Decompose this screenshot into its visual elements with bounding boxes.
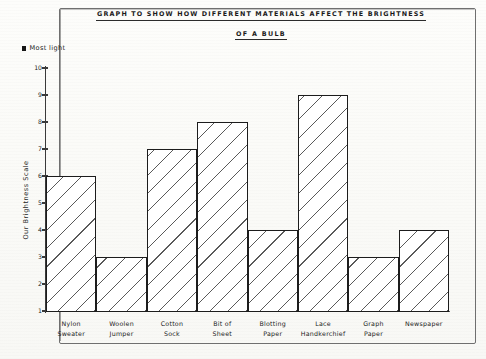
category-label-word: Newspaper (393, 319, 455, 329)
y-axis-tick (42, 67, 48, 68)
bar (197, 122, 247, 312)
chart-plot-area: Our Brightness Scale 10987654321 NylonSw… (0, 0, 486, 359)
y-axis-tick-label: 10 (30, 64, 42, 71)
y-axis-tick-label: 2 (30, 280, 42, 287)
y-axis-tick-label: 1 (30, 307, 42, 314)
y-axis-tick (42, 148, 48, 149)
bar (46, 176, 96, 312)
category-label-word: Paper (342, 329, 404, 339)
bar (348, 257, 398, 312)
x-axis-category-label: Newspaper (393, 319, 455, 329)
bar (96, 257, 146, 312)
y-axis-tick-label: 9 (30, 91, 42, 98)
bar (248, 230, 298, 312)
bar (298, 95, 348, 312)
bar (399, 230, 449, 312)
y-axis-tick-label: 4 (30, 226, 42, 233)
y-axis-tick (42, 121, 48, 122)
y-axis-tick-label: 7 (30, 145, 42, 152)
y-axis-tick-label: 8 (30, 118, 42, 125)
y-axis-tick-label: 6 (30, 172, 42, 179)
y-axis-title: Our Brightness Scale (22, 135, 30, 265)
y-axis-tick-label: 5 (30, 199, 42, 206)
y-axis-tick-label: 3 (30, 253, 42, 260)
y-axis-tick (42, 94, 48, 95)
bar (147, 149, 197, 312)
